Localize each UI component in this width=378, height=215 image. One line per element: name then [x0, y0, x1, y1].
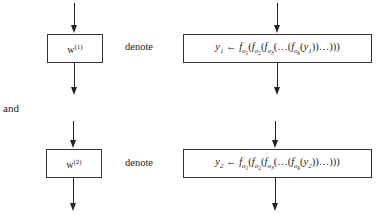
arrowhead-icon — [274, 87, 280, 95]
arrow-in-left-1 — [74, 3, 76, 26]
arrowhead-icon — [70, 203, 76, 211]
arrow-out-left-2 — [73, 178, 75, 204]
and-connector: and — [3, 102, 19, 114]
arrowhead-icon — [274, 25, 280, 33]
formula-2: y2 ← fo1(fo2(fo3(…(fok(y2))…))) — [215, 156, 339, 171]
arrow-out-right-2 — [275, 178, 277, 204]
arrow-in-left-2 — [73, 121, 75, 141]
arrowhead-icon — [272, 140, 278, 148]
formula-box-1: y1 ← fo1(fo2(fo3(…(fok(y1))…))) — [183, 34, 372, 63]
box-w2: w(2) — [46, 149, 102, 178]
box-w1: w(1) — [47, 34, 103, 63]
arrow-out-right-1 — [277, 63, 279, 88]
box-w1-label: w(1) — [67, 43, 82, 55]
arrow-out-left-1 — [74, 63, 76, 88]
arrow-in-right-2 — [275, 121, 277, 141]
arrow-in-right-1 — [277, 3, 279, 26]
formula-box-2: y2 ← fo1(fo2(fo3(…(fok(y2))…))) — [183, 149, 372, 178]
box-w2-label: w(2) — [66, 158, 81, 170]
denote-label-2: denote — [125, 157, 153, 168]
arrowhead-icon — [71, 25, 77, 33]
arrowhead-icon — [71, 87, 77, 95]
arrowhead-icon — [70, 140, 76, 148]
denote-label-1: denote — [125, 41, 153, 52]
arrowhead-icon — [272, 203, 278, 211]
formula-1: y1 ← fo1(fo2(fo3(…(fok(y1))…))) — [215, 41, 339, 56]
